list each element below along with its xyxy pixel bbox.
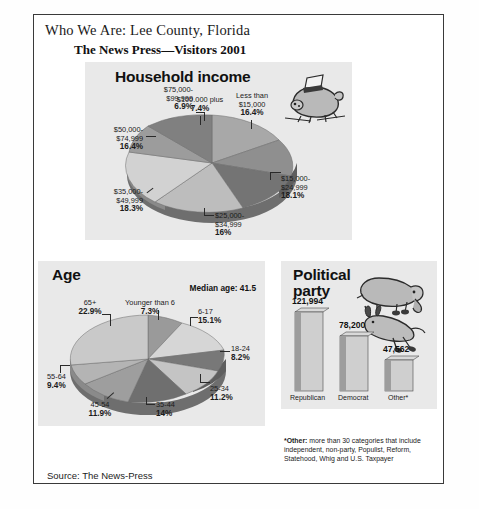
- other-footnote: *Other: more than 30 categories that inc…: [284, 436, 436, 463]
- age-leader-35-44-v: [146, 397, 147, 405]
- age-label-6-17: 6-17 15.1%: [198, 308, 221, 325]
- income-leader-50000-74999: [146, 136, 156, 137]
- bar-category-democrat: Democrat: [338, 394, 368, 401]
- age-leader-55-64-h: [60, 365, 70, 366]
- age-label-55-64: 55-64 9.4%: [47, 373, 66, 390]
- age-leader-younger-than-6: [158, 310, 159, 320]
- age-leader-6-17-h: [190, 317, 198, 318]
- income-label-25000-34999: $25,000- $34,999 16%: [215, 212, 244, 238]
- income-label-35000-49999: $35,000- $49,999 18.3%: [85, 188, 143, 214]
- infographic-page: Who We Are: Lee County, Florida The News…: [0, 0, 479, 509]
- age-panel: Age Median age: 41.5 Younger than 6 7.3%: [38, 261, 265, 426]
- age-leader-6-17-v: [190, 317, 191, 326]
- income-leader-100000-plus: [200, 116, 201, 125]
- page-subtitle: The News Press—Visitors 2001: [74, 42, 246, 58]
- income-leader-less-than-15000: [251, 120, 252, 129]
- bar-category-other: Other*: [388, 394, 408, 401]
- bar-value-other: 47,562: [383, 344, 409, 354]
- household-income-panel: Household income: [85, 62, 352, 240]
- income-leader-25000-34999-h: [204, 215, 214, 216]
- age-leader-65-plus-v: [110, 314, 111, 326]
- bar-value-democrat: 78,200: [339, 320, 365, 330]
- age-leader-25-34-v: [200, 374, 201, 383]
- age-label-45-54: 45-54 11.9%: [78, 401, 122, 418]
- age-leader-55-64-v: [60, 365, 61, 373]
- income-label-100000-plus: $100.000 plus 7.4%: [169, 96, 231, 113]
- income-label-less-than-15000: Less than $15,000 16.4%: [223, 92, 281, 118]
- income-label-15000-24999: $15,000- $24,999 18.1%: [281, 175, 310, 201]
- income-leader-25000-34999-v: [204, 208, 205, 216]
- income-leader-15000-24999-h: [270, 172, 281, 173]
- income-label-50000-74999: $50,000- $74,999 16.4%: [85, 126, 143, 152]
- age-label-35-44: 35-44 14%: [156, 401, 175, 418]
- page-title: Who We Are: Lee County, Florida: [45, 22, 250, 39]
- age-label-younger-than-6: Younger than 6 7.3%: [114, 299, 186, 316]
- other-footnote-lead: *Other:: [284, 437, 307, 444]
- income-leader-15000-24999-v: [270, 172, 271, 180]
- age-label-25-34: 25-34 11.2%: [210, 385, 233, 402]
- source-line: Source: The News-Press: [47, 470, 152, 481]
- age-label-18-24: 18-24 8.2%: [231, 345, 250, 362]
- income-leader-75000-99999-v: [204, 112, 205, 121]
- bar-value-republican: 121,994: [292, 296, 323, 306]
- political-party-panel: Political party: [281, 261, 437, 409]
- age-leader-35-44-h: [146, 404, 155, 405]
- age-leader-25-34-h: [200, 382, 210, 383]
- age-leader-18-24: [220, 351, 230, 352]
- bar-category-republican: Republican: [290, 394, 325, 401]
- political-party-bar-chart: [281, 261, 437, 409]
